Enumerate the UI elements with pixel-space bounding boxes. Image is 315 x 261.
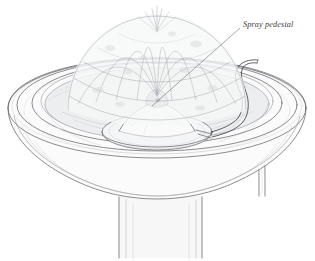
fountain-illustration: Spray pedestal	[0, 0, 315, 261]
spray-pedestal-label: Spray pedestal	[243, 20, 294, 29]
fountain-drawing-canvas: Spray pedestal	[0, 0, 315, 261]
support-column	[118, 196, 203, 258]
water-spray	[67, 6, 247, 126]
